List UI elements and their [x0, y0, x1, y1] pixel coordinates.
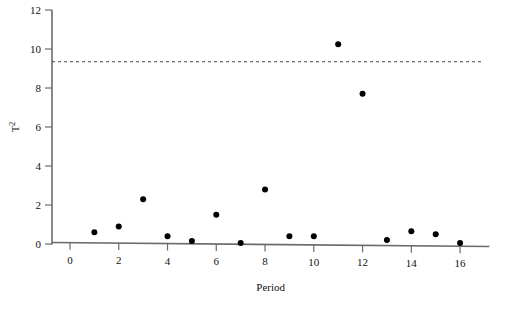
- y-axis-title: T2: [8, 122, 21, 133]
- x-axis-line: [52, 243, 489, 247]
- data-points: [91, 41, 463, 246]
- y-tick-label: 0: [36, 238, 42, 250]
- x-tick-label: 8: [262, 255, 268, 267]
- data-point: [238, 240, 244, 246]
- data-point: [140, 196, 146, 202]
- y-axis-title-exponent: 2: [8, 122, 17, 126]
- data-point: [116, 223, 122, 229]
- x-tick-label: 2: [116, 254, 122, 266]
- x-tick-label: 6: [214, 255, 220, 267]
- y-tick-label: 10: [30, 43, 42, 55]
- y-tick-label: 12: [30, 4, 41, 16]
- axes-group: [52, 10, 489, 247]
- y-tick-label: 6: [36, 121, 42, 133]
- data-point: [91, 229, 97, 235]
- y-tick-label: 4: [36, 160, 42, 172]
- x-tick-label: 10: [308, 256, 320, 268]
- x-tick-label: 12: [357, 256, 368, 268]
- x-axis-title: Period: [256, 281, 285, 293]
- y-tick-label: 8: [36, 82, 42, 94]
- x-tick-label: 4: [165, 255, 171, 267]
- x-tick-label: 0: [67, 254, 73, 266]
- x-tick-label: 16: [455, 257, 467, 269]
- data-point: [408, 228, 414, 234]
- data-point: [457, 240, 463, 246]
- data-point: [213, 212, 219, 218]
- data-point: [384, 237, 390, 243]
- y-axis-ticks: 024681012: [30, 4, 52, 250]
- x-tick-label: 14: [406, 257, 418, 269]
- data-point: [165, 233, 171, 239]
- data-point: [189, 238, 195, 244]
- x-axis-ticks: 0246810121416: [67, 243, 466, 270]
- scatter-chart: 024681012 0246810121416 PeriodT2: [0, 0, 517, 312]
- data-point: [286, 233, 292, 239]
- data-point: [335, 41, 341, 47]
- chart-canvas: 024681012 0246810121416 PeriodT2: [0, 0, 517, 312]
- data-point: [262, 186, 268, 192]
- axis-titles: PeriodT2: [8, 122, 286, 293]
- y-tick-label: 2: [36, 199, 42, 211]
- data-point: [311, 233, 317, 239]
- data-point: [433, 231, 439, 237]
- data-point: [360, 91, 366, 97]
